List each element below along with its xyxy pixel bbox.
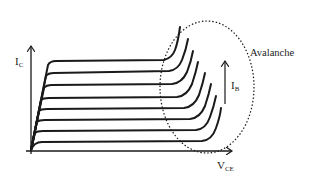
avalanche-label: Avalanche [250,48,294,59]
characteristic-curves-diagram [0,0,313,179]
ic-curves [31,27,221,150]
ib-label: IB [231,80,239,93]
avalanche-region-ellipse [160,21,254,153]
y-axis-label: IC [15,56,23,69]
x-axis-label: VCE [217,160,234,173]
